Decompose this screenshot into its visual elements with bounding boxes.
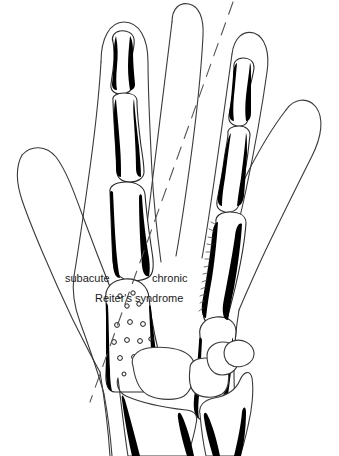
caption-reiters-syndrome: Reiter's syndrome (95, 292, 183, 304)
index-finger-outline-left (74, 62, 101, 276)
triquetrum-bone (224, 340, 254, 367)
hand-illustration-svg: subacute chronic Reiter's syndrome (0, 0, 339, 456)
label-subacute: subacute (65, 272, 110, 284)
thumb-outline-inner (22, 148, 112, 292)
label-chronic: chronic (152, 272, 188, 284)
little-finger-outline (239, 100, 321, 310)
reiters-syndrome-hand-figure: subacute chronic Reiter's syndrome (0, 0, 339, 456)
